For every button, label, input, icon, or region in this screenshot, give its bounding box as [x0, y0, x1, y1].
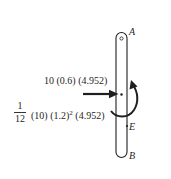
- pin-hole-icon: [120, 37, 123, 40]
- moment-arrow-icon: [111, 80, 138, 117]
- moment-length: (1.2)2: [50, 110, 73, 121]
- moment-exponent: 2: [69, 109, 73, 117]
- moment-fraction: 1 12: [14, 101, 26, 124]
- point-e-dot: [126, 125, 128, 127]
- rod-diagram: A E B 10 (0.6) (4.952) 1 12 (10) (1.2)2 …: [0, 0, 171, 179]
- fraction-numerator: 1: [14, 101, 26, 113]
- moment-label: (10) (1.2)2 (4.952): [31, 111, 105, 121]
- center-of-mass-dot: [120, 93, 122, 95]
- fraction-denominator: 12: [14, 113, 26, 124]
- moment-alpha: (4.952): [75, 110, 104, 121]
- point-b-label: B: [129, 151, 135, 161]
- moment-mass: (10): [31, 110, 48, 121]
- point-a-label: A: [129, 27, 135, 37]
- force-label: 10 (0.6) (4.952): [44, 76, 107, 86]
- force-arrow-icon: [83, 90, 119, 98]
- point-e-label: E: [129, 122, 135, 132]
